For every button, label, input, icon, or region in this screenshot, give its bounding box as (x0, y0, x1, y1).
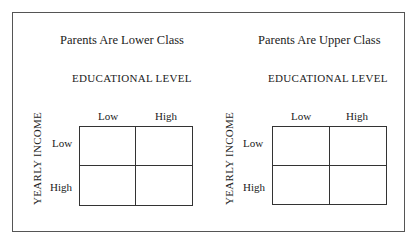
panel-title: Parents Are Upper Class (258, 33, 381, 48)
column-axis-label: EDUCATIONAL LEVEL (268, 72, 388, 84)
column-axis-label: EDUCATIONAL LEVEL (72, 72, 192, 84)
grid-divider-horizontal (273, 165, 386, 166)
column-label-high: High (155, 110, 177, 122)
column-label-low: Low (291, 110, 311, 122)
column-label-low: Low (98, 110, 118, 122)
row-label-low: Low (52, 137, 72, 149)
cross-tab-grid (79, 126, 193, 206)
grid-divider-horizontal (80, 165, 192, 166)
row-axis-label: YEARLY INCOME (31, 112, 43, 205)
row-label-low: Low (243, 137, 263, 149)
row-axis-label: YEARLY INCOME (223, 112, 235, 205)
panel-title: Parents Are Lower Class (60, 33, 184, 48)
row-label-high: High (50, 181, 72, 193)
grid-divider-vertical (135, 127, 136, 205)
column-label-high: High (346, 110, 368, 122)
row-label-high: High (243, 181, 265, 193)
cross-tab-grid (272, 126, 387, 205)
